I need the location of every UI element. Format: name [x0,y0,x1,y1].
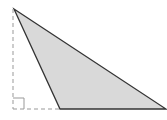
obtuse-triangle [14,9,166,109]
right-angle-marker [13,98,24,109]
triangle-diagram [0,0,167,120]
